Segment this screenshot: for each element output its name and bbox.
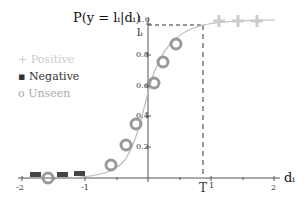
circle-icon: o	[18, 87, 25, 100]
x-axis-title: dᵢ	[284, 170, 295, 185]
legend: + Positive ▪ Negative o Unseen	[18, 51, 79, 102]
y-tick-label: 0.6	[136, 81, 149, 90]
level-label: lᵢ	[137, 26, 143, 39]
square-icon: ▪	[18, 70, 25, 83]
y-tick-label: 0.8	[136, 50, 149, 59]
y-tick-label: 1.0	[137, 15, 150, 24]
plus-icon: +	[18, 53, 27, 66]
legend-item-unseen: o Unseen	[18, 85, 79, 102]
x-tick-label: -1	[81, 183, 89, 192]
y-axis-title: P(y = lᵢ|dᵢ)	[73, 10, 140, 25]
x-tick-label: 1	[209, 181, 214, 190]
threshold-label: T	[199, 181, 207, 195]
sigmoid-diagram: P(y = lᵢ|dᵢ) lᵢ dᵢ T -2 -1 1 2 0.2 0.4 0…	[0, 0, 307, 202]
x-tick-label: -2	[16, 183, 24, 192]
legend-item-positive: + Positive	[18, 51, 79, 68]
y-tick-label: 0.2	[136, 142, 149, 151]
y-tick-label: 0.4	[136, 111, 149, 120]
positive-markers	[213, 15, 263, 27]
x-tick-label: 2	[271, 183, 276, 192]
legend-item-negative: ▪ Negative	[18, 68, 79, 85]
negative-markers	[30, 171, 85, 177]
